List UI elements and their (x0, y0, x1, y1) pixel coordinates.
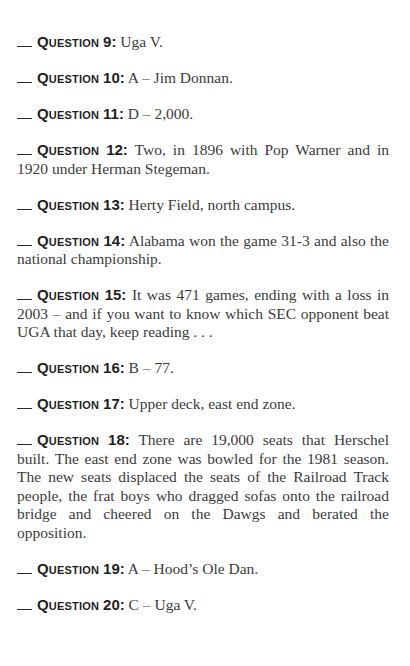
question-number: 16: (103, 359, 125, 376)
answer-key-page: Question 9: Uga V. Question 10: A – Jim … (17, 33, 389, 632)
question-label: Question (37, 286, 99, 303)
question-label: Question (37, 105, 99, 122)
checkbox-blank-line (17, 562, 32, 574)
question-number: 18: (108, 431, 130, 448)
question-number: 20: (103, 596, 125, 613)
answer-question-13: Question 13: Herty Field, north campus. (17, 196, 389, 215)
question-number: 9: (103, 33, 116, 50)
answer-question-9: Question 9: Uga V. (17, 33, 389, 52)
answer-question-11: Question 11: D – 2,000. (17, 105, 389, 124)
answer-question-12: Question 12: Two, in 1896 with Pop Warne… (17, 141, 389, 178)
checkbox-blank-line (17, 234, 32, 246)
question-label: Question (37, 69, 99, 86)
answer-question-10: Question 10: A – Jim Donnan. (17, 69, 389, 88)
question-label: Question (37, 232, 99, 249)
question-number: 11: (103, 105, 124, 122)
checkbox-blank-line (17, 598, 32, 610)
question-number: 10: (103, 69, 125, 86)
answer-text: Upper deck, east end zone. (129, 395, 296, 412)
answer-question-14: Question 14: Alabama won the game 31-3 a… (17, 232, 389, 269)
answer-text: B – 77. (129, 359, 174, 376)
answer-text: Herty Field, north campus. (129, 196, 296, 213)
question-number: 12: (106, 141, 128, 158)
question-label: Question (37, 431, 99, 448)
checkbox-blank-line (17, 143, 32, 155)
question-label: Question (37, 560, 99, 577)
answer-question-18: Question 18: There are 19,000 seats that… (17, 431, 389, 542)
answer-question-16: Question 16: B – 77. (17, 359, 389, 378)
checkbox-blank-line (17, 71, 32, 83)
answer-question-15: Question 15: It was 471 games, ending wi… (17, 286, 389, 342)
answer-text: D – 2,000. (128, 105, 193, 122)
answer-text: C – Uga V. (129, 596, 197, 613)
answer-question-19: Question 19: A – Hood’s Ole Dan. (17, 560, 389, 579)
answer-text: Uga V. (120, 33, 163, 50)
checkbox-blank-line (17, 35, 32, 47)
checkbox-blank-line (17, 107, 32, 119)
question-number: 19: (103, 560, 125, 577)
question-number: 13: (103, 196, 125, 213)
answer-question-20: Question 20: C – Uga V. (17, 596, 389, 615)
checkbox-blank-line (17, 397, 32, 409)
question-label: Question (37, 596, 99, 613)
checkbox-blank-line (17, 198, 32, 210)
question-label: Question (37, 141, 99, 158)
checkbox-blank-line (17, 288, 32, 300)
question-label: Question (37, 196, 99, 213)
checkbox-blank-line (17, 433, 32, 445)
answer-question-17: Question 17: Upper deck, east end zone. (17, 395, 389, 414)
question-number: 15: (105, 286, 127, 303)
answer-text: A – Hood’s Ole Dan. (128, 560, 258, 577)
question-number: 14: (104, 232, 126, 249)
checkbox-blank-line (17, 361, 32, 373)
answer-text: A – Jim Donnan. (128, 69, 233, 86)
question-label: Question (37, 33, 99, 50)
question-label: Question (37, 395, 99, 412)
question-label: Question (37, 359, 99, 376)
question-number: 17: (103, 395, 125, 412)
